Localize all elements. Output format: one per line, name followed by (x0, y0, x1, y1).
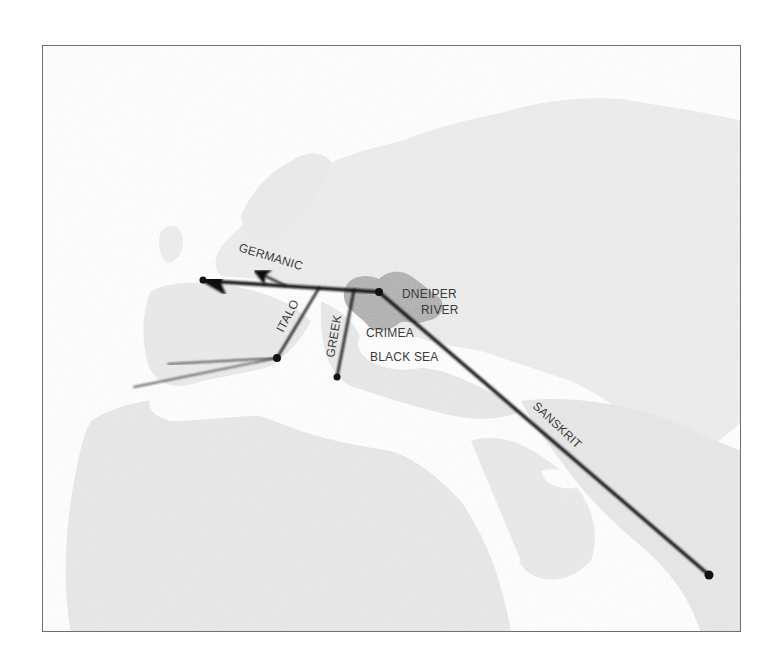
map-frame: GERMANIC ITALO GREEK DNEIPER RIVER CRIME… (42, 45, 741, 632)
node-sanskrit (705, 571, 714, 580)
label-dneiper: DNEIPER (402, 287, 457, 301)
label-river: RIVER (421, 303, 459, 317)
node-greek (334, 374, 341, 381)
node-italo (273, 354, 281, 362)
label-crimea: CRIMEA (366, 326, 414, 340)
origin-node-dneiper (375, 288, 383, 296)
label-black-sea: BLACK SEA (370, 350, 439, 364)
migration-map: GERMANIC ITALO GREEK DNEIPER RIVER CRIME… (43, 46, 741, 632)
node-germanic-end (200, 277, 207, 284)
